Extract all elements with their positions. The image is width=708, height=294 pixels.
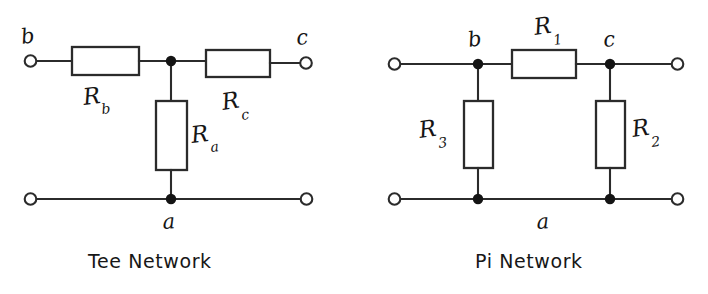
tee-resistor-label-Ra-sub: a: [209, 138, 219, 155]
pi-resistor-label-R1-base: R: [531, 12, 553, 40]
tee-junction-dot-top: [166, 56, 176, 66]
pi-resistor-R1-body: [512, 50, 576, 78]
tee-resistor-label-Ra-base: R: [188, 120, 209, 148]
pi-junction-dot-b: [473, 59, 483, 69]
pi-node-label-c: c: [602, 27, 616, 52]
tee-resistor-label-Rc-base: R: [219, 87, 241, 116]
pi-terminal-bottom-right: [672, 193, 684, 205]
two-port-network-figure: b c a R b R c R a: [0, 0, 708, 294]
pi-terminal-top-right: [672, 58, 684, 70]
tee-terminal-c: [300, 57, 312, 69]
tee-resistor-Rb-body: [72, 47, 139, 75]
pi-node-label-b: b: [466, 26, 483, 52]
pi-terminal-top-left: [389, 58, 401, 70]
tee-node-label-c: c: [295, 25, 309, 50]
tee-junction-dot-bottom: [166, 194, 176, 204]
pi-resistor-label-R2-base: R: [629, 114, 651, 142]
tee-node-label-a: a: [162, 209, 176, 234]
pi-resistor-R3-body: [464, 101, 493, 168]
pi-resistor-R2-body: [596, 101, 625, 168]
tee-network-group: b c a R b R c R a: [19, 23, 312, 234]
pi-junction-dot-bottom-right: [605, 194, 615, 204]
tee-resistor-label-Rc-sub: c: [240, 106, 250, 123]
pi-terminal-bottom-left: [389, 193, 401, 205]
tee-node-label-b: b: [19, 23, 36, 49]
pi-junction-dot-c: [605, 59, 615, 69]
pi-node-label-a: a: [536, 209, 550, 234]
pi-network-group: b c a R 1 R 3 R 2: [389, 12, 684, 234]
pi-resistor-label-R3-base: R: [416, 115, 438, 143]
pi-resistor-label-R3-sub: 3: [437, 134, 448, 151]
pi-network-caption: Pi Network: [475, 250, 583, 272]
tee-terminal-b: [25, 55, 37, 67]
pi-resistor-label-R2-sub: 2: [649, 133, 661, 150]
tee-network-caption: Tee Network: [88, 250, 212, 272]
pi-resistor-label-R1-sub: 1: [552, 31, 563, 48]
tee-terminal-bottom-right: [301, 193, 313, 205]
tee-terminal-bottom-left: [25, 193, 37, 205]
tee-resistor-label-Rb-sub: b: [100, 100, 111, 117]
tee-resistor-Ra-body: [156, 101, 187, 170]
tee-resistor-Rc-body: [206, 50, 270, 77]
pi-junction-dot-bottom-left: [473, 194, 483, 204]
tee-resistor-label-Rb-base: R: [80, 82, 101, 110]
